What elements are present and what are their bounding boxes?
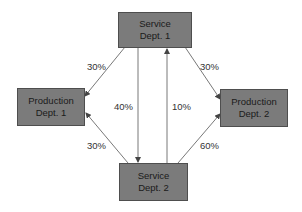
node-production-dept-1: Production Dept. 1	[17, 88, 85, 126]
node-label-line1: Service	[139, 18, 171, 30]
edge-label-s2-p1: 30%	[87, 140, 106, 151]
edge-label-s2-s1: 10%	[172, 101, 191, 112]
node-label-line1: Production	[28, 95, 73, 107]
edge-s1-p2-arrow	[185, 47, 220, 99]
node-label-line1: Service	[138, 170, 170, 182]
edge-label-s2-p2: 60%	[200, 140, 219, 151]
edge-s2-p1-arrow	[86, 113, 128, 163]
node-label-line1: Production	[231, 96, 276, 108]
cost-allocation-diagram: Service Dept. 1 Production Dept. 1 Produ…	[0, 0, 302, 212]
node-label-line2: Dept. 1	[140, 30, 171, 42]
node-service-dept-2: Service Dept. 2	[119, 163, 188, 201]
node-production-dept-2: Production Dept. 2	[220, 89, 288, 127]
node-label-line2: Dept. 2	[138, 182, 169, 194]
edge-s2-p2-arrow	[178, 114, 220, 163]
edge-label-s1-s2: 40%	[114, 101, 133, 112]
edge-label-s1-p1: 30%	[87, 61, 106, 72]
node-label-line2: Dept. 2	[239, 108, 270, 120]
edge-label-s1-p2: 30%	[200, 61, 219, 72]
node-service-dept-1: Service Dept. 1	[118, 12, 192, 48]
node-label-line2: Dept. 1	[36, 107, 67, 119]
